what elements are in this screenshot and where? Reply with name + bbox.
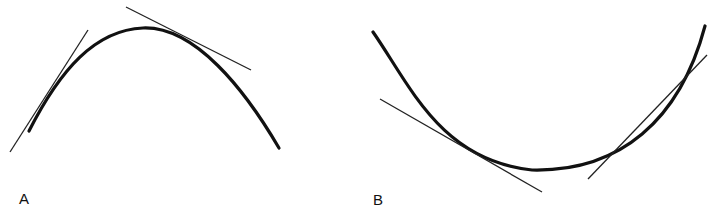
tangent-line-a1 bbox=[10, 30, 88, 152]
panel-label-b: B bbox=[373, 191, 383, 208]
diagram-svg bbox=[0, 0, 714, 216]
concavity-diagram: A B bbox=[0, 0, 714, 216]
panel-a bbox=[10, 7, 279, 152]
concave-up-curve bbox=[373, 26, 705, 170]
tangent-line-a2 bbox=[126, 7, 251, 70]
panel-b bbox=[373, 26, 707, 192]
tangent-line-b1 bbox=[380, 99, 542, 192]
concave-down-curve bbox=[29, 28, 279, 148]
tangent-line-b2 bbox=[588, 55, 707, 179]
panel-label-a: A bbox=[19, 190, 29, 207]
